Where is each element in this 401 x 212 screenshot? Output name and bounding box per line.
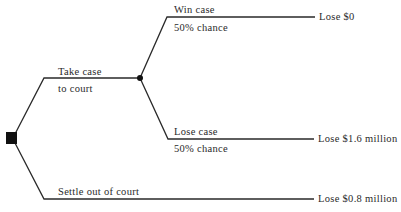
outcome-probability-lose: 50% chance xyxy=(174,144,228,155)
result-settle: Lose $0.8 million xyxy=(318,194,397,205)
branch-label-take-case: Take case xyxy=(58,67,102,78)
outcome-probability-win: 50% chance xyxy=(174,23,228,34)
result-lose-case: Lose $1.6 million xyxy=(318,134,397,145)
outcome-label-win-case: Win case xyxy=(174,5,215,16)
decision-node-square xyxy=(6,132,17,144)
branch-label-settle: Settle out of court xyxy=(58,187,139,198)
result-win-case: Lose $0 xyxy=(319,12,355,23)
branch-label-to-court: to court xyxy=(58,84,93,95)
chance-node-circle xyxy=(137,75,143,81)
outcome-label-lose-case: Lose case xyxy=(174,127,218,138)
branch-lose-case-line xyxy=(140,78,314,139)
